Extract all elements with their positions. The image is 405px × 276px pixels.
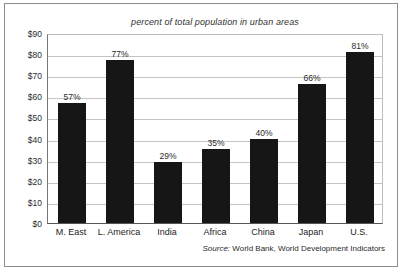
y-axis-tick-label: $90 [28,29,42,39]
y-axis-tick-label: $10 [28,198,42,208]
bar [346,52,374,223]
bar-value-label: 35% [192,138,240,148]
bar-value-label: 81% [336,41,384,51]
source-note: Source: World Bank, World Development In… [203,244,385,253]
bar-value-label: 57% [48,92,96,102]
source-prefix: Source: [203,244,231,253]
plot-area: 57%77%29%35%40%66%81% [47,34,383,224]
y-axis-tick-label: $60 [28,92,42,102]
bar-value-label: 77% [96,49,144,59]
gridline [48,98,382,99]
source-text: World Bank, World Development Indicators [232,244,385,253]
bar [106,60,134,223]
bar [202,149,230,223]
y-axis-tick-label: $80 [28,50,42,60]
bar-value-label: 29% [144,151,192,161]
bar [154,162,182,223]
bar [250,139,278,223]
bar-value-label: 66% [288,73,336,83]
bar-value-label: 40% [240,128,288,138]
bar [298,84,326,223]
gridline [48,119,382,120]
chart-title: percent of total population in urban are… [47,17,383,27]
y-axis-tick-label: $20 [28,177,42,187]
y-axis-tick-label: $40 [28,135,42,145]
y-axis-tick-label: $70 [28,71,42,81]
bar [58,103,86,223]
x-axis-category-labels: M. EastL. AmericaIndiaAfricaChinaJapanU.… [47,227,383,241]
y-axis-tick-label: $30 [28,156,42,166]
x-axis-category-label: U.S. [328,227,390,237]
chart-page: percent of total population in urban are… [0,0,405,276]
y-axis-tick-label: $50 [28,113,42,123]
y-axis-tick-labels: $90$80$70$60$50$40$30$20$10$0 [7,34,45,224]
chart-frame: percent of total population in urban are… [4,3,398,267]
